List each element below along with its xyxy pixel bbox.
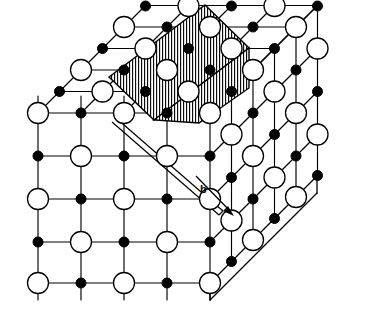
atom-filled xyxy=(162,278,172,288)
atom-filled xyxy=(33,151,43,161)
atom-filled xyxy=(119,151,129,161)
atom-open xyxy=(307,124,328,145)
lattice-svg: b xyxy=(0,0,388,318)
atom-open xyxy=(221,38,242,59)
dislocation-figure: b xyxy=(0,0,388,318)
atom-open xyxy=(157,60,178,81)
burgers-vector-label: b xyxy=(200,183,207,195)
atom-open xyxy=(135,38,156,59)
atom-filled xyxy=(270,130,280,140)
atom-filled xyxy=(248,22,258,32)
atom-open xyxy=(28,103,49,124)
atom-filled xyxy=(76,194,86,204)
atom-filled xyxy=(227,1,237,11)
atom-filled xyxy=(162,194,172,204)
atom-open xyxy=(221,124,242,145)
atom-open xyxy=(71,232,92,253)
atom-filled xyxy=(313,171,323,181)
atom-open xyxy=(286,17,307,38)
atom-filled xyxy=(205,65,215,75)
atom-open xyxy=(114,273,135,294)
atom-open xyxy=(307,38,328,59)
atom-open xyxy=(286,103,307,124)
atom-filled xyxy=(291,65,301,75)
atom-filled xyxy=(162,22,172,32)
atom-filled xyxy=(33,237,43,247)
atom-filled xyxy=(248,108,258,118)
atom-open xyxy=(243,60,264,81)
atom-open xyxy=(200,103,221,124)
atom-open xyxy=(157,146,178,167)
atom-filled xyxy=(141,87,151,97)
atom-open xyxy=(264,81,285,102)
atom-filled xyxy=(248,194,258,204)
atom-filled xyxy=(98,44,108,54)
atom-open xyxy=(243,146,264,167)
atom-filled xyxy=(270,214,280,224)
atom-open xyxy=(114,103,135,124)
atom-filled xyxy=(227,87,237,97)
atom-open xyxy=(286,187,307,208)
atom-filled xyxy=(119,237,129,247)
atom-filled xyxy=(184,44,194,54)
atom-open xyxy=(264,0,285,17)
atom-open xyxy=(92,81,113,102)
atom-filled xyxy=(76,278,86,288)
atom-filled xyxy=(270,44,280,54)
atom-open xyxy=(114,189,135,210)
atom-open xyxy=(178,0,199,17)
atom-open xyxy=(28,273,49,294)
atom-open xyxy=(200,273,221,294)
atom-open xyxy=(71,146,92,167)
atom-filled xyxy=(313,1,323,11)
atom-filled xyxy=(141,1,151,11)
atom-open xyxy=(264,167,285,188)
atom-filled xyxy=(119,65,129,75)
atom-open xyxy=(243,230,264,251)
atom-filled xyxy=(227,173,237,183)
atom-open xyxy=(114,17,135,38)
atom-filled xyxy=(227,257,237,267)
atom-filled xyxy=(76,108,86,118)
atom-filled xyxy=(205,237,215,247)
atom-filled xyxy=(313,87,323,97)
atom-open xyxy=(71,60,92,81)
atom-open xyxy=(157,232,178,253)
atom-filled xyxy=(205,151,215,161)
atom-filled xyxy=(291,151,301,161)
atom-open xyxy=(200,17,221,38)
atom-open xyxy=(178,81,199,102)
atom-open xyxy=(28,189,49,210)
atom-filled xyxy=(55,87,65,97)
atom-filled xyxy=(162,108,172,118)
